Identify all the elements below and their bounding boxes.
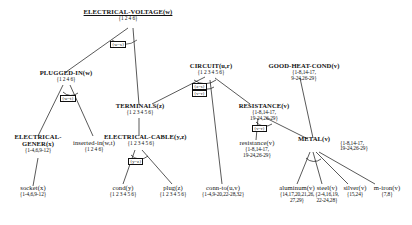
node-set-cont: 19-24,26-29} (228, 116, 300, 122)
unification-text: {v=r} (194, 91, 205, 96)
node-electrical-gener[interactable]: ELECTRICAL- GENER(x) {1-4,6,9-12} (6, 134, 70, 154)
node-set-cont: 9-24,26-29} (258, 76, 350, 82)
node-set: {1-4,6,9-12} (6, 148, 70, 154)
node-electrical-voltage[interactable]: ELECTRICAL-VOLTAGE(w) {1 2 4 6} (72, 9, 184, 22)
node-set-cont: 22-24,28} (304, 198, 350, 204)
node-set: {1 2 3 4 5 6} (104, 141, 178, 147)
node-set: {1-4,9-20,22-28,32} (186, 192, 260, 198)
unification-label-circuit-1: {z=s} (192, 83, 207, 90)
node-good-heat-cond[interactable]: GOOD-HEAT-COND(v) {1-8,14-17, 9-24,26-29… (258, 63, 350, 81)
node-conn-to[interactable]: conn-to(u,v) {1-4,9-20,22-28,32} (186, 185, 260, 198)
node-set: {1 2 3 4 5 6} (96, 192, 150, 198)
node-set: {1 2 3 4 5 6} (176, 70, 246, 76)
unification-label-cable: {y=z} (128, 158, 143, 165)
node-set: {1 2 4 6} (64, 147, 124, 153)
unification-text: {z=s} (194, 84, 205, 89)
node-set: {1 2 4 6} (72, 16, 184, 22)
node-set: {1-4,6,9-12} (4, 192, 62, 198)
node-electrical-cable[interactable]: ELECTRICAL-CABLE(y,z) {1 2 3 4 5 6} (104, 134, 178, 147)
node-plugged-in[interactable]: PLUGGED-IN(w) {1 2 4 6} (26, 70, 106, 83)
unification-label-circuit-2: {v=r} (192, 90, 207, 97)
node-set: {1 2 3 4 5 6} (106, 110, 174, 116)
unification-label-plugged-in: {w=t} (60, 95, 76, 102)
unification-text: {w=t} (62, 96, 74, 101)
unification-label-root: {w=s} (110, 41, 126, 48)
node-set: {1 2 4 6} (26, 77, 106, 83)
node-set-cont: 19-24,26-29} (226, 153, 288, 159)
node-m-iron[interactable]: m-iron(v) {7,8} (364, 185, 410, 198)
node-set: {7,8} (364, 192, 410, 198)
node-label: METAL(v) (290, 136, 338, 143)
node-cond[interactable]: cond(y) {1 2 3 4 5 6} (96, 185, 150, 198)
unification-label-resistance: {v=r} (252, 125, 267, 132)
diagram-canvas: ELECTRICAL-VOLTAGE(w) {1 2 4 6} PLUGGED-… (0, 0, 412, 225)
node-terminals[interactable]: TERMINALS(z) {1 2 3 4 5 6} (106, 103, 174, 116)
node-socket[interactable]: socket(x) {1-4,6,9-12} (4, 185, 62, 198)
unification-text: {v=r} (254, 126, 265, 131)
node-circuit[interactable]: CIRCUIT(u,r) {1 2 3 4 5 6} (176, 63, 246, 76)
unification-text: {w=s} (112, 42, 124, 47)
node-resistance-upper[interactable]: RESISTANCE(v) {1-8,14-17, 19-24,26-29} (228, 103, 300, 121)
node-metal-set: {1-8,14-17, 19-24,26-29} (340, 140, 390, 151)
node-resistance-lower[interactable]: resistance(v) {1-8,14-17, 19-24,26-29} (226, 140, 288, 158)
node-set-cont: 19-24,26-29} (340, 146, 390, 152)
node-metal[interactable]: METAL(v) (290, 136, 338, 143)
unification-text: {y=z} (130, 159, 141, 164)
